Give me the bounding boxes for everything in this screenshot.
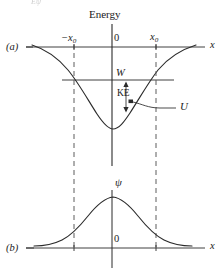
wavefunction-curve: [34, 197, 192, 246]
kinetic-energy-label: KE: [117, 89, 130, 99]
potential-energy-curve: [32, 45, 196, 129]
right-turning-point-subscript: 0: [155, 36, 159, 44]
left-turning-point-label: −x0: [61, 33, 76, 45]
right-turning-point-label: x0: [150, 32, 158, 44]
potential-energy-label: U: [180, 101, 188, 112]
scan-artifact-text: Eψ: [31, 0, 41, 6]
panel-b-y-axis-label: ψ: [115, 177, 122, 188]
figure-canvas: [0, 0, 223, 278]
potential-label-leader-line: [133, 102, 176, 108]
total-energy-label: W: [116, 68, 125, 79]
panel-a-origin-label: 0: [114, 33, 119, 44]
kinetic-energy-arrow-head-up: [123, 82, 128, 88]
left-turning-point-symbol: −x: [61, 32, 73, 43]
panel-b-tag: (b): [6, 243, 18, 254]
left-turning-point-subscript: 0: [73, 37, 77, 45]
panel-b-x-axis-label: x: [210, 241, 215, 252]
potential-label-leader-endpoint: [129, 100, 134, 104]
panel-a-y-axis-label: Energy: [89, 9, 121, 20]
panel-a-tag: (a): [6, 42, 18, 53]
panel-a-x-axis-label: x: [210, 40, 215, 51]
panel-b-origin-label: 0: [114, 234, 119, 245]
physics-figure: Eψ (a) Energy x 0 −x0 x0 W KE U (b) ψ 0 …: [0, 0, 223, 278]
kinetic-energy-arrow-head-down: [123, 107, 128, 113]
